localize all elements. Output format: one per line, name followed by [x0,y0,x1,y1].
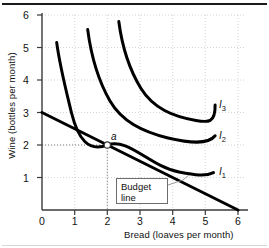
y-axis-title: Wine (bottles per month) [6,46,17,166]
figure-root: 6 5 4 3 2 1 0 1 2 3 4 5 6 Bread (loaves … [0,0,269,248]
indifference-curve-i1 [57,43,214,175]
x-axis-title: Bread (loaves per month) [124,229,234,240]
ytick-label-1: 1 [19,172,33,184]
ytick-label-4: 4 [19,74,33,86]
curve-label-i1-sub: 1 [222,171,226,180]
point-a-label: a [111,131,117,142]
budget-line-callout-line2: line [121,192,136,203]
xtick-label-6: 6 [231,215,245,227]
xtick-label-3: 3 [133,215,147,227]
indifference-curve-plot [0,0,269,248]
curve-label-i3: I3 [219,99,226,113]
budget-line-callout-line1: Budget [121,181,151,192]
curve-label-i2: I2 [219,130,226,144]
budget-line-callout: Budget line [116,178,168,204]
xtick-label-1: 1 [68,215,82,227]
indifference-curve-i2 [88,30,215,143]
ytick-label-3: 3 [19,107,33,119]
curve-label-i2-sub: 2 [222,135,226,144]
xtick-label-4: 4 [166,215,180,227]
indifference-curve-i3 [119,22,215,122]
ytick-label-5: 5 [19,42,33,54]
ytick-label-6: 6 [19,9,33,21]
ytick-label-2: 2 [19,139,33,151]
curve-label-i1: I1 [219,166,226,180]
curve-label-i3-sub: 3 [222,104,226,113]
xtick-label-2: 2 [100,215,114,227]
point-a-marker [104,142,110,148]
xtick-label-0: 0 [35,215,49,227]
xtick-label-5: 5 [198,215,212,227]
